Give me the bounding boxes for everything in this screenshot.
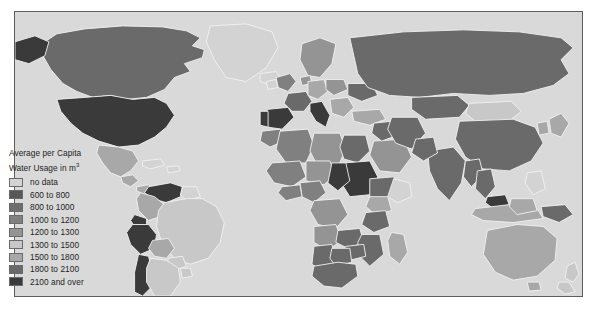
legend-label: 800 to 1000: [30, 202, 74, 212]
country-korea: [537, 121, 549, 135]
country-uruguay: [180, 268, 192, 278]
country-tasmania: [527, 282, 541, 291]
legend-row: 1200 to 1300: [9, 226, 127, 238]
legend-swatch: [9, 215, 23, 224]
legend-row: 800 to 1000: [9, 201, 127, 213]
country-russia: [350, 30, 573, 98]
legend-label: no data: [30, 177, 58, 187]
legend-label: 1000 to 1200: [30, 215, 79, 225]
world-map-figure: Average per Capita Water Usage in m3 no …: [0, 0, 596, 316]
legend-title-superscript: 3: [76, 162, 79, 168]
legend-swatch: [9, 253, 23, 262]
legend-swatch: [9, 228, 23, 237]
legend-title: Average per Capita Water Usage in m3: [9, 147, 127, 174]
legend-title-line1: Average per Capita: [9, 148, 81, 158]
country-ireland: [266, 80, 278, 90]
legend-label: 1200 to 1300: [30, 227, 79, 237]
legend-row: 1500 to 1800: [9, 251, 127, 263]
legend-swatch: [9, 190, 23, 199]
legend-label: 600 to 800: [30, 190, 70, 200]
legend-swatch: [9, 265, 23, 274]
legend-swatch: [9, 277, 23, 286]
country-mongolia: [465, 101, 521, 121]
legend-rows: no data600 to 800800 to 10001000 to 1200…: [9, 176, 127, 288]
legend-row: 600 to 800: [9, 189, 127, 201]
legend-label: 1500 to 1800: [30, 252, 79, 262]
legend-row: 1000 to 1200: [9, 213, 127, 225]
legend-label: 1800 to 2100: [30, 264, 79, 274]
legend-label: 2100 and over: [30, 277, 84, 287]
country-kazakhstan: [412, 95, 470, 119]
legend-label: 1300 to 1500: [30, 240, 79, 250]
country-portugal: [260, 111, 268, 127]
legend-row: 1300 to 1500: [9, 238, 127, 250]
legend-row: 1800 to 2100: [9, 263, 127, 275]
legend-row: no data: [9, 176, 127, 188]
legend-title-line2: Water Usage in m: [9, 163, 76, 173]
legend-swatch: [9, 203, 23, 212]
legend-swatch: [9, 178, 23, 187]
map-legend: Average per Capita Water Usage in m3 no …: [9, 147, 127, 288]
legend-row: 2100 and over: [9, 276, 127, 288]
legend-swatch: [9, 240, 23, 249]
